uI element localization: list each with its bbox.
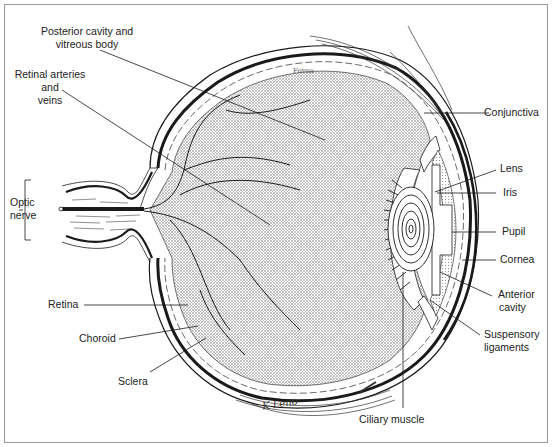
label-iris: Iris <box>503 186 517 199</box>
label-suspensory-ligaments: Suspensory ligaments <box>484 328 539 354</box>
label-cornea: Cornea <box>500 253 534 266</box>
label-pupil: Pupil <box>502 225 525 238</box>
label-ciliary-muscle: Ciliary muscle <box>359 413 424 426</box>
label-conjunctiva: Conjunctiva <box>484 106 539 119</box>
label-sclera: Sclera <box>118 375 148 388</box>
label-posterior-cavity: Posterior cavity and vitreous body <box>12 25 162 51</box>
label-anterior-cavity: Anterior cavity <box>498 288 535 314</box>
optic-nerve <box>59 168 158 262</box>
fovea-mark: Fovea <box>293 67 314 75</box>
label-retinal-vessels: Retinal arteries and veins <box>10 68 90 107</box>
label-retina: Retina <box>48 298 78 311</box>
lens <box>388 187 434 271</box>
label-choroid: Choroid <box>79 332 116 345</box>
label-optic-nerve: Optic nerve <box>10 196 36 222</box>
label-lens: Lens <box>500 162 523 175</box>
